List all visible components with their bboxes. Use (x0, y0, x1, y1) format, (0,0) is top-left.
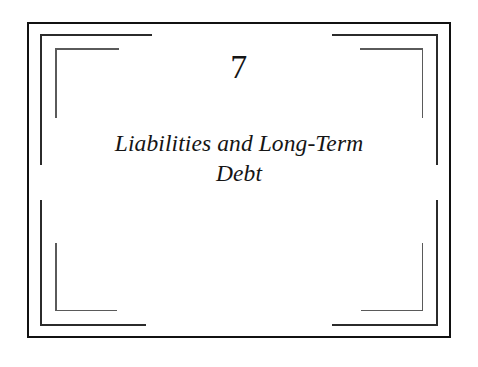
page-title-line-2: Debt (27, 158, 451, 188)
chapter-content-block: 7 Liabilities and Long-Term Debt (27, 22, 451, 338)
chapter-number: 7 (27, 50, 451, 84)
chapter-title-page: 7 Liabilities and Long-Term Debt (0, 0, 478, 367)
page-title-line-1: Liabilities and Long-Term (27, 128, 451, 158)
page-title: Liabilities and Long-Term Debt (27, 128, 451, 188)
